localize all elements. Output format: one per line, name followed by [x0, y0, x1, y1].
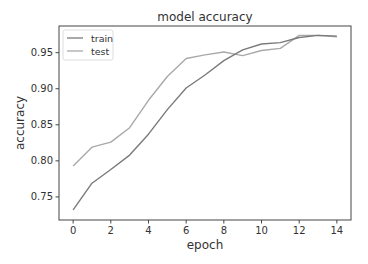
x-axis-label: epoch: [187, 238, 224, 252]
x-tick-label: 12: [293, 225, 306, 236]
y-tick-label: 0.90: [31, 83, 53, 94]
x-tick-label: 14: [331, 225, 344, 236]
legend-train-label: train: [91, 33, 113, 44]
y-tick-label: 0.80: [31, 155, 53, 166]
x-axis-ticks: 02468101214: [70, 220, 343, 236]
x-tick-label: 4: [145, 225, 151, 236]
y-tick-label: 0.75: [31, 191, 53, 202]
x-tick-label: 8: [221, 225, 227, 236]
x-tick-label: 6: [183, 225, 189, 236]
accuracy-chart: model accuracy 02468101214 0.750.800.850…: [0, 0, 368, 264]
x-tick-label: 0: [70, 225, 76, 236]
x-tick-label: 2: [108, 225, 114, 236]
chart-title: model accuracy: [157, 10, 252, 24]
y-tick-label: 0.95: [31, 47, 53, 58]
y-tick-label: 0.85: [31, 119, 53, 130]
y-axis-label: accuracy: [13, 96, 27, 150]
legend-test-label: test: [91, 46, 110, 57]
y-axis-ticks: 0.750.800.850.900.95: [31, 47, 59, 202]
legend: train test: [63, 30, 113, 60]
x-tick-label: 10: [255, 225, 268, 236]
